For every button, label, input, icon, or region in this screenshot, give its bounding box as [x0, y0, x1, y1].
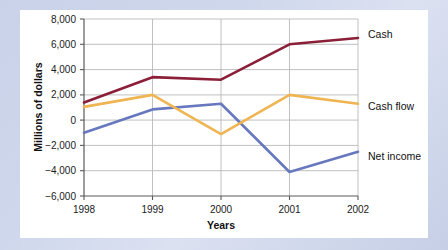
y-tick-label: 4,000 [51, 64, 76, 75]
series-labels: Cash Cash flow Net income [368, 28, 421, 162]
x-tick-label: 1999 [141, 204, 164, 215]
series-label-net-income: Net income [368, 150, 421, 162]
x-axis-ticks [84, 196, 358, 200]
chart-card: 8,000 6,000 4,000 2,000 0 −2,000 −4,000 … [20, 10, 428, 238]
y-tick-label: 6,000 [51, 39, 76, 50]
y-tick-labels: 8,000 6,000 4,000 2,000 0 −2,000 −4,000 … [45, 14, 76, 202]
y-tick-label: 0 [70, 115, 76, 126]
x-tick-label: 2000 [210, 204, 233, 215]
y-axis-title: Millions of dollars [32, 62, 44, 151]
chart-figure: 8,000 6,000 4,000 2,000 0 −2,000 −4,000 … [0, 0, 448, 250]
y-tick-label: 8,000 [51, 14, 76, 25]
x-tick-label: 1998 [73, 204, 96, 215]
x-tick-label: 2001 [278, 204, 301, 215]
y-tick-label: −6,000 [45, 191, 76, 202]
x-tick-labels: 1998 1999 2000 2001 2002 [73, 204, 370, 215]
series-label-cash: Cash [368, 28, 393, 40]
x-tick-label: 2002 [347, 204, 370, 215]
series-label-cash-flow: Cash flow [368, 100, 415, 112]
y-tick-label: 2,000 [51, 89, 76, 100]
x-axis-title: Years [207, 219, 235, 231]
y-tick-label: −4,000 [45, 165, 76, 176]
y-tick-label: −2,000 [45, 140, 76, 151]
line-chart: 8,000 6,000 4,000 2,000 0 −2,000 −4,000 … [20, 10, 428, 238]
